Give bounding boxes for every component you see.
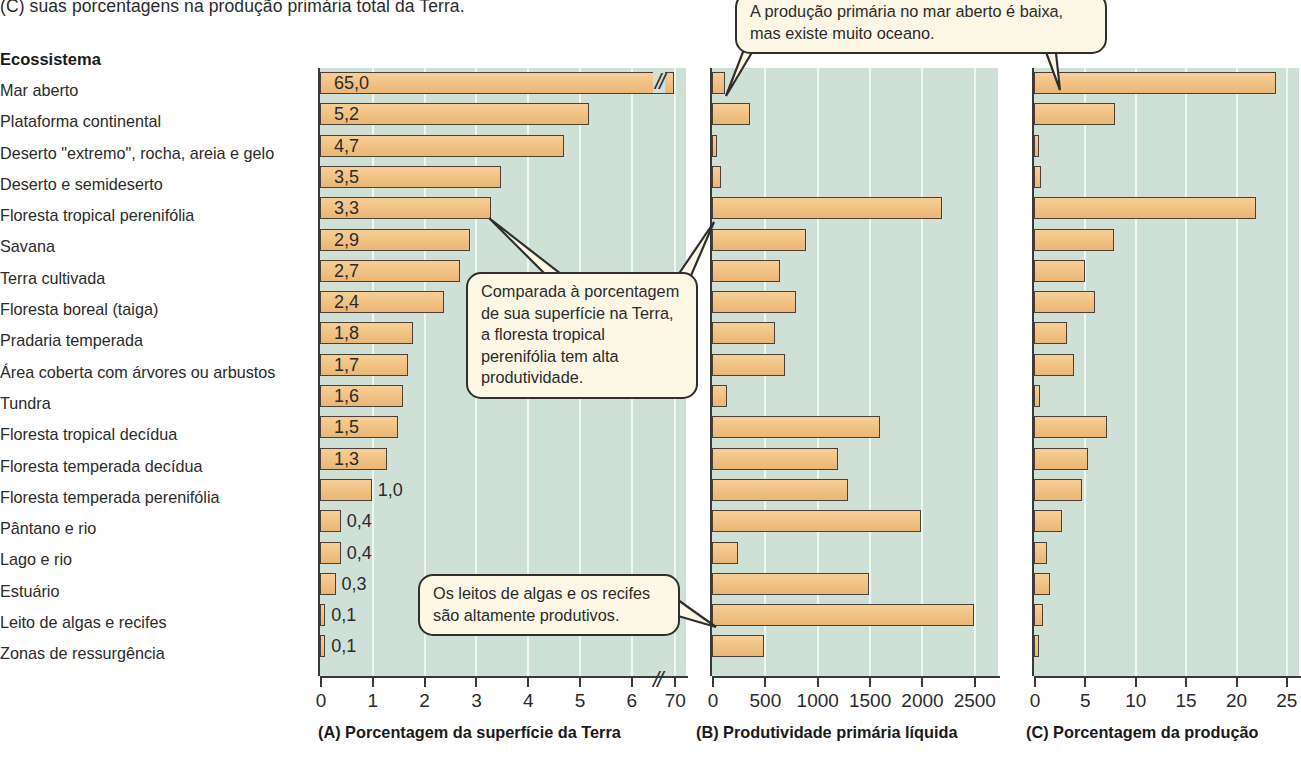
callout-tropical-rainforest: Comparada à porcentagem de sua superfíci… [466, 272, 698, 399]
callout-algae-reefs: Os leitos de algas e os recifes são alta… [418, 574, 680, 636]
callout-open-ocean: A produção primária no mar aberto é baix… [735, 0, 1107, 54]
callout-tropical-rainforest-text: Comparada à porcentagem de sua superfíci… [481, 282, 679, 386]
callout-open-ocean-text: A produção primária no mar aberto é baix… [750, 2, 1063, 42]
callout-algae-reefs-text: Os leitos de algas e os recifes são alta… [433, 584, 650, 624]
